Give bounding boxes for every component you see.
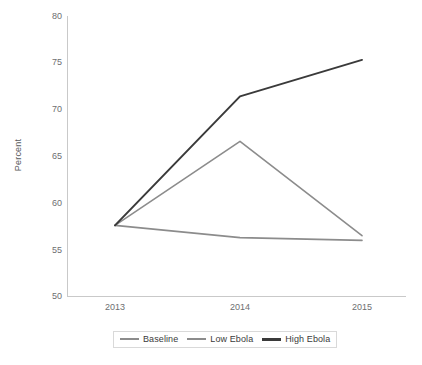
legend-swatch-baseline [120,338,139,340]
legend-item-high-ebola[interactable]: High Ebola [262,334,330,344]
legend-label-high-ebola: High Ebola [285,334,330,344]
legend-item-low-ebola[interactable]: Low Ebola [187,334,253,344]
legend-label-low-ebola: Low Ebola [210,334,253,344]
legend-swatch-low-ebola [187,338,206,340]
legend-swatch-high-ebola [262,338,281,341]
x-tick-label-2013: 2013 [95,302,135,312]
x-tick-label-2014: 2014 [220,302,260,312]
chart-legend: Baseline Low Ebola High Ebola [113,331,337,348]
series-line-baseline [115,225,362,240]
legend-item-baseline[interactable]: Baseline [120,334,178,344]
legend-label-baseline: Baseline [143,334,178,344]
x-tick-label-2015: 2015 [342,302,382,312]
chart-figure: Percent 80 75 70 65 60 55 50 2013 2014 2… [0,0,422,365]
